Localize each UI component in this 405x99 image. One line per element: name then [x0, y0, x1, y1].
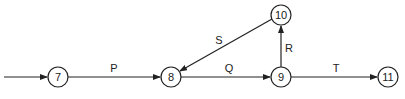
edge-r: R [281, 26, 293, 67]
edge-t: T [291, 62, 377, 77]
edge-label-p: P [110, 62, 117, 74]
node-label-7: 7 [55, 71, 61, 83]
node-9: 9 [271, 67, 291, 87]
node-label-8: 8 [168, 71, 174, 83]
node-7: 7 [48, 67, 68, 87]
network-diagram: P Q R S T 7 8 9 10 11 [0, 0, 405, 99]
node-8: 8 [161, 67, 181, 87]
edge-label-r: R [285, 42, 293, 54]
node-label-10: 10 [275, 9, 287, 21]
edge-p: P [68, 62, 160, 77]
node-label-9: 9 [278, 71, 284, 83]
edge-label-t: T [333, 62, 340, 74]
node-label-11: 11 [382, 71, 393, 83]
edge-label-s: S [215, 34, 222, 46]
node-10: 10 [271, 5, 291, 25]
edge-label-q: Q [225, 62, 234, 74]
edge-q: Q [181, 62, 270, 77]
node-11: 11 [378, 67, 398, 87]
